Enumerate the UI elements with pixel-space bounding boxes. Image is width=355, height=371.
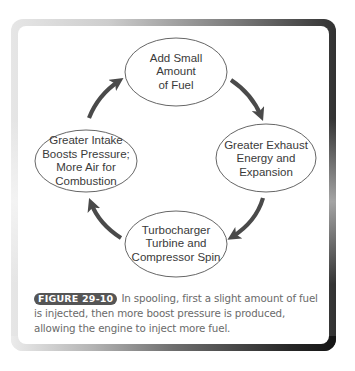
node-left-line-1: Greater Intake [49, 134, 123, 148]
node-label-right: Greater Exhaust Energy and Expansion [216, 131, 316, 187]
node-top-line-2: Amount [156, 65, 196, 79]
node-label-bottom: Turbocharger Turbine and Compressor Spin [124, 216, 228, 272]
arrow-top-to-right [231, 80, 261, 116]
node-right-line-3: Expansion [239, 166, 293, 180]
node-right-line-2: Energy and [237, 152, 296, 166]
node-top-line-3: of Fuel [158, 79, 193, 93]
node-bottom-line-2: Turbine and [146, 237, 207, 251]
node-left-line-3: More Air for [56, 161, 115, 175]
node-left-line-4: Combustion [55, 175, 116, 189]
arrow-left-to-top [89, 81, 119, 118]
node-label-top: Add Small Amount of Fuel [126, 44, 226, 100]
arrow-bottom-to-left [91, 203, 121, 238]
node-label-left: Greater Intake Boosts Pressure; More Air… [34, 133, 138, 189]
node-top-line-1: Add Small [150, 52, 202, 66]
figure-caption: FIGURE 29-10In spooling, first a slight … [34, 291, 319, 337]
node-right-line-1: Greater Exhaust [224, 139, 308, 153]
node-left-line-2: Boosts Pressure; [42, 148, 130, 162]
node-bottom-line-1: Turbocharger [142, 224, 211, 238]
arrow-right-to-bottom [232, 198, 263, 237]
figure-label-badge: FIGURE 29-10 [34, 293, 117, 305]
node-bottom-line-3: Compressor Spin [132, 251, 221, 265]
